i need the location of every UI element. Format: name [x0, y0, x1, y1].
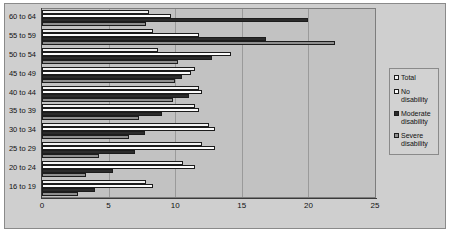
legend-item[interactable]: Moderate disability [394, 110, 435, 126]
bar-group [42, 122, 375, 141]
bar [42, 154, 99, 158]
bar [42, 135, 129, 139]
y-axis-label: 50 to 54 [9, 50, 36, 59]
gridline [375, 9, 376, 197]
x-axis-tick-labels: 0510152025 [5, 201, 447, 215]
x-axis-tick-label: 0 [40, 201, 44, 210]
legend-swatch-icon [394, 133, 399, 138]
bar-group [42, 141, 375, 160]
y-axis-label: 45 to 49 [9, 69, 36, 78]
y-axis-line [41, 8, 42, 199]
y-axis-category-labels: 60 to 6455 to 5950 to 5445 to 4940 to 44… [5, 8, 39, 198]
bar-group [42, 159, 375, 178]
x-axis-tick-label: 20 [304, 201, 313, 210]
y-axis-label: 16 to 19 [9, 182, 36, 191]
legend-label: Total [401, 74, 416, 82]
y-axis-label: 35 to 39 [9, 106, 36, 115]
y-axis-label: 60 to 64 [9, 12, 36, 21]
bar-group [42, 84, 375, 103]
x-axis-tick-label: 15 [237, 201, 246, 210]
bar-group [42, 103, 375, 122]
bar-group [42, 178, 375, 197]
bar [42, 116, 139, 120]
chart-screenshot: 60 to 6455 to 5950 to 5445 to 4940 to 44… [0, 0, 450, 235]
bar [42, 22, 146, 26]
x-axis-tick-label: 10 [171, 201, 180, 210]
legend-swatch-icon [394, 89, 399, 94]
legend-label: No disability [401, 88, 435, 104]
x-axis-line [41, 198, 377, 199]
y-axis-label: 20 to 24 [9, 163, 36, 172]
bar [42, 60, 178, 64]
bar [42, 41, 335, 45]
y-axis-label: 40 to 44 [9, 88, 36, 97]
bar-group [42, 28, 375, 47]
x-axis-tick-label: 25 [371, 201, 380, 210]
bar [42, 173, 86, 177]
legend-swatch-icon [394, 75, 399, 80]
y-axis-label: 25 to 29 [9, 144, 36, 153]
x-axis-tick-label: 5 [106, 201, 110, 210]
legend-item[interactable]: Total [394, 74, 435, 82]
bar [42, 192, 78, 196]
y-axis-label: 30 to 34 [9, 125, 36, 134]
legend-label: Moderate disability [401, 110, 435, 126]
legend-item[interactable]: Severe disability [394, 132, 435, 148]
plot-area [41, 8, 376, 198]
bar-group [42, 47, 375, 66]
y-axis-label: 55 to 59 [9, 31, 36, 40]
chart-legend: TotalNo disabilityModerate disabilitySev… [389, 68, 439, 155]
bar [42, 79, 175, 83]
bar-group [42, 65, 375, 84]
chart-panel: 60 to 6455 to 5950 to 5445 to 4940 to 44… [4, 3, 446, 229]
legend-label: Severe disability [401, 132, 435, 148]
legend-item[interactable]: No disability [394, 88, 435, 104]
bar [42, 98, 173, 102]
bar-group [42, 9, 375, 28]
legend-swatch-icon [394, 111, 399, 116]
